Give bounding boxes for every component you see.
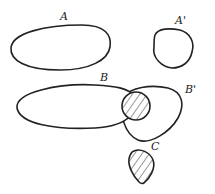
region-b: B: [17, 71, 136, 128]
region-a: A: [11, 10, 110, 70]
diagram-canvas: A A' B' B C: [0, 0, 215, 194]
region-a-prime: A': [154, 14, 193, 68]
label-a-prime: A': [174, 14, 186, 27]
label-a: A: [59, 10, 68, 23]
region-b-overlap: [122, 92, 150, 120]
label-b: B: [99, 71, 108, 84]
label-b-prime: B': [184, 83, 196, 96]
region-c: C: [129, 140, 160, 184]
label-c: C: [151, 140, 160, 153]
